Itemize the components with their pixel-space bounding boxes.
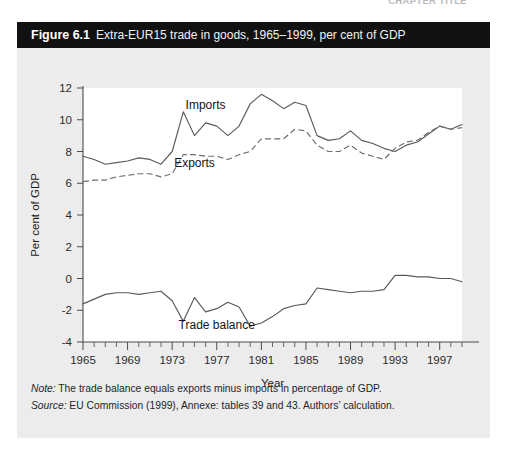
source-label: Source:	[31, 400, 67, 411]
figure-title-bar: Figure 6.1 Extra-EUR15 trade in goods, 1…	[17, 22, 490, 48]
chart-labels: ImportsExportsTrade balance	[174, 98, 255, 333]
figure-panel: Figure 6.1 Extra-EUR15 trade in goods, 1…	[17, 22, 490, 438]
figure-notes: Note: The trade balance equals exports m…	[17, 380, 490, 436]
x-tick-label: 1989	[338, 354, 364, 366]
chart-axes: -4-2024681012196519691973197719811985198…	[29, 82, 479, 389]
series-line-exports	[83, 126, 462, 182]
y-tick-label: 12	[59, 82, 72, 94]
y-axis-title: Per cent of GDP	[29, 173, 41, 257]
running-head-text: CHAPTER TITLE	[388, 0, 467, 6]
x-tick-label: 1993	[382, 354, 408, 366]
series-line-imports	[83, 94, 462, 164]
note-line-source: Source: EU Commission (1999), Annexe: ta…	[31, 397, 476, 414]
series-annotation-exports: Exports	[174, 156, 215, 170]
figure-caption: Extra-EUR15 trade in goods, 1965–1999, p…	[96, 28, 406, 42]
note-text: The trade balance equals exports minus i…	[56, 383, 382, 394]
y-tick-label: 4	[66, 209, 73, 221]
line-chart: -4-2024681012196519691973197719811985198…	[17, 48, 490, 378]
y-tick-label: 6	[66, 177, 72, 189]
figure-page: CHAPTER TITLE Figure 6.1 Extra-EUR15 tra…	[0, 0, 507, 468]
x-tick-label: 1981	[249, 354, 275, 366]
page-running-header: CHAPTER TITLE	[0, 0, 507, 14]
note-label: Note:	[31, 383, 56, 394]
y-tick-label: 2	[66, 241, 72, 253]
plot-area: -4-2024681012196519691973197719811985198…	[17, 48, 490, 378]
x-tick-label: 1985	[293, 354, 319, 366]
series-annotation-imports: Imports	[186, 98, 226, 112]
y-tick-label: -4	[62, 336, 73, 348]
source-text: EU Commission (1999), Annexe: tables 39 …	[67, 400, 395, 411]
y-tick-label: 0	[66, 273, 72, 285]
y-tick-label: -2	[62, 304, 72, 316]
y-tick-label: 10	[59, 114, 72, 126]
series-line-trade-balance	[83, 275, 462, 326]
note-line-note: Note: The trade balance equals exports m…	[31, 380, 476, 397]
chart-series	[83, 94, 462, 326]
x-tick-label: 1977	[204, 354, 230, 366]
x-tick-label: 1997	[427, 354, 453, 366]
x-tick-label: 1965	[70, 354, 96, 366]
series-annotation-trade-balance: Trade balance	[179, 318, 256, 332]
x-tick-label: 1969	[115, 354, 141, 366]
x-tick-label: 1973	[159, 354, 185, 366]
figure-number: Figure 6.1	[31, 28, 90, 42]
y-tick-label: 8	[66, 146, 72, 158]
